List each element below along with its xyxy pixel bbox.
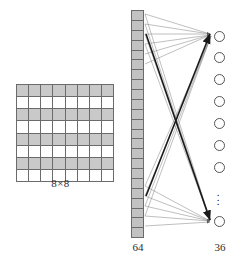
grid-cell [17,145,29,157]
grid-cell [65,109,77,121]
grid-cell [101,145,113,157]
grid-cell [65,85,77,97]
input-unit-cell [132,179,143,189]
output-layer-label: 36 [206,241,234,253]
grid-cell [77,121,89,133]
grid-row [17,97,114,109]
grid-cell [65,97,77,109]
grid-cell [77,109,89,121]
grid-cell [65,133,77,145]
edges-highlight [146,34,210,220]
input-unit-cell [132,21,143,31]
input-unit-cell [132,41,143,51]
input-layer-column [131,10,144,238]
grid-cell [65,145,77,157]
output-node [214,52,225,63]
grid-cell [101,85,113,97]
grid-cell [101,97,113,109]
output-node [214,216,225,227]
grid-cell [101,157,113,169]
input-unit-cell [132,199,143,209]
output-node [214,96,225,107]
grid-cell [29,109,41,121]
input-unit-cell [132,100,143,110]
grid-cell [29,97,41,109]
grid-cell [29,145,41,157]
grid-cell [41,97,53,109]
edges-to-bottom-node [145,14,210,226]
output-node [214,162,225,173]
grid-cell [89,121,101,133]
input-layer-label: 64 [124,241,152,253]
grid-row [17,133,114,145]
grid-cell [65,157,77,169]
grid-row [17,145,114,157]
input-unit-cell [132,11,143,21]
edges-to-top-node [145,14,211,216]
grid-cell [89,97,101,109]
grid-cell [77,85,89,97]
grid-cell [101,121,113,133]
input-unit-cell [132,159,143,169]
grid-row [17,121,114,133]
dot-icon: . [214,199,222,204]
input-unit-cell [132,218,143,228]
grid-cell [53,157,65,169]
grid-cell [53,133,65,145]
input-unit-cell [132,80,143,90]
grid-cell [89,85,101,97]
grid-cell [53,145,65,157]
input-unit-cell [132,90,143,100]
grid-cell [53,85,65,97]
grid-cell [77,97,89,109]
grid-cell [41,133,53,145]
grid-cell [29,121,41,133]
input-unit-cell [132,149,143,159]
grid-row [17,85,114,97]
grid-cell [101,133,113,145]
grid-cell [53,121,65,133]
grid-cell [41,145,53,157]
grid-row [17,109,114,121]
input-unit-cell [132,209,143,219]
grid-cell [17,133,29,145]
grid-cell [17,121,29,133]
grid-cell [89,133,101,145]
output-ellipsis-icon: . . . [214,190,222,204]
grid-body [17,85,114,182]
input-unit-cell [132,228,143,237]
grid-cell [17,85,29,97]
grid-cell [41,121,53,133]
grid-cell [65,121,77,133]
grid-size-label: 8×8 [16,177,105,189]
input-unit-cell [132,120,143,130]
figure-neural-network-diagram: 8×8 [0,0,240,264]
grid-cell [77,157,89,169]
grid-cell [101,109,113,121]
input-unit-cell [132,51,143,61]
grid-cell [89,157,101,169]
output-node [214,140,225,151]
grid-cell [53,109,65,121]
grid-cell [89,109,101,121]
grid-cell [17,97,29,109]
grid-cell [77,145,89,157]
output-node [214,118,225,129]
input-unit-cell [132,70,143,80]
input-image-grid [16,84,105,173]
grid-cell [53,97,65,109]
input-unit-cell [132,189,143,199]
grid-row [17,157,114,169]
grid-cell [29,85,41,97]
grid-cell [89,145,101,157]
output-node [214,74,225,85]
input-unit-cell [132,31,143,41]
grid-cell [17,157,29,169]
output-node [214,31,225,42]
grid-cell [29,133,41,145]
grid-cell [41,157,53,169]
input-unit-cell [132,139,143,149]
grid-cell [17,109,29,121]
grid-cell [41,109,53,121]
input-unit-cell [132,130,143,140]
